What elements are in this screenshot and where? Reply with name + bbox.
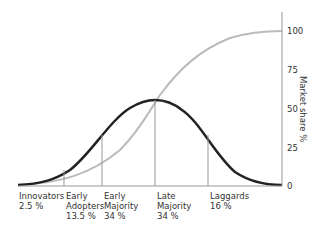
y-tick-100: 100: [287, 26, 303, 36]
label-early-adopters: Early Adopters 13.5 %: [66, 191, 104, 221]
y-tick-25: 25: [287, 143, 298, 153]
label-innovators: Innovators 2.5 %: [19, 191, 64, 211]
label-late-majority: Late Majority 34 %: [157, 191, 191, 221]
label-laggards: Laggards 16 %: [210, 191, 249, 211]
label-early-majority: Early Majority 34 %: [104, 191, 138, 221]
y-tick-50: 50: [287, 104, 298, 114]
y-axis-label: Market share %: [298, 76, 308, 142]
market-share-curve: [18, 31, 282, 185]
adoption-bell-curve: [18, 100, 282, 185]
y-tick-0: 0: [287, 181, 292, 191]
y-tick-75: 75: [287, 65, 298, 75]
